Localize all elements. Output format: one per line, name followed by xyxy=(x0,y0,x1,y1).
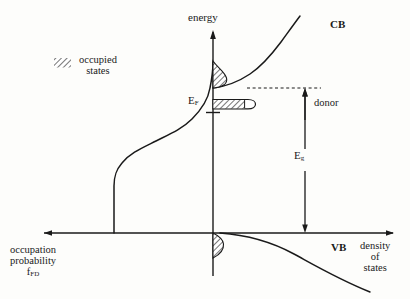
legend-label-line1: occupied xyxy=(79,54,117,65)
dos-label-line3: states xyxy=(360,262,390,273)
arrow-up-icon xyxy=(302,88,308,97)
fermi-dirac-curve xyxy=(114,62,213,233)
horizontal-axis xyxy=(44,230,394,236)
band-gap-label-main: E xyxy=(294,149,301,161)
fd-symbol-sub: FD xyxy=(30,270,39,278)
legend-label-line2: states xyxy=(79,65,117,76)
band-gap-label: Eg xyxy=(294,150,304,162)
dos-label-line2: of xyxy=(360,251,390,262)
donor-label: donor xyxy=(314,97,339,108)
arrow-down-icon xyxy=(302,225,308,234)
valence-band-dos-curve xyxy=(220,233,370,292)
fermi-level-label-sub: F xyxy=(195,99,199,107)
donor-level xyxy=(213,100,256,109)
diagram-canvas xyxy=(0,0,410,299)
valence-band-label: VB xyxy=(331,242,346,254)
density-of-states-axis-label: density of states xyxy=(360,240,390,273)
fd-label-line2: probability xyxy=(10,255,56,266)
occupied-donor-states xyxy=(214,100,245,108)
arrow-right-icon xyxy=(386,230,394,236)
arrow-up-icon xyxy=(210,30,216,39)
occupation-probability-axis-label: occupation probability fFD xyxy=(10,244,56,278)
legend-label: occupied states xyxy=(79,54,117,76)
band-diagram-figure: energy CB occupied states EF donor Eg VB… xyxy=(0,0,410,299)
occupied-states-valence-band xyxy=(213,233,224,258)
energy-axis-label: energy xyxy=(188,12,218,24)
conduction-band-label: CB xyxy=(330,19,345,31)
fermi-level-label: EF xyxy=(188,95,199,107)
fermi-level-label-main: E xyxy=(188,94,195,106)
hatched-swatch xyxy=(54,58,71,68)
fd-label-line3: fFD xyxy=(10,266,56,278)
occupied-states-conduction-band xyxy=(213,61,227,88)
band-gap-label-sub: g xyxy=(301,154,305,162)
arrow-left-icon xyxy=(44,230,52,236)
dos-label-line1: density xyxy=(360,240,390,251)
fd-label-line1: occupation xyxy=(10,244,56,255)
